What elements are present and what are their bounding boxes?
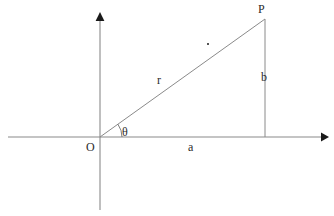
diagram-canvas: P b r a O θ (0, 0, 334, 216)
hypotenuse-segment (100, 19, 265, 137)
angle-theta-label: θ (122, 126, 128, 138)
x-axis-arrowhead-icon (321, 133, 329, 142)
hypotenuse-marker-dot (207, 43, 209, 45)
y-axis-arrowhead-icon (96, 12, 105, 21)
diagram-svg (0, 0, 334, 216)
point-p-label: P (258, 3, 265, 15)
opposite-side-label: b (261, 71, 267, 83)
hypotenuse-label: r (157, 74, 161, 86)
adjacent-side-label: a (188, 141, 193, 153)
origin-label: O (86, 141, 95, 153)
